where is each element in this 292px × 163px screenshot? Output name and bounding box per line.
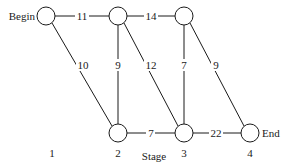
weight-begin-b2: 10 [78, 59, 90, 71]
node-begin [37, 7, 55, 25]
weight-t3-end: 9 [213, 59, 219, 71]
weight-t2-b3: 12 [146, 59, 157, 71]
label-end: End [262, 127, 280, 139]
node-stage2-bottom [109, 124, 127, 142]
node-end [241, 124, 259, 142]
label-begin: Begin [9, 10, 36, 22]
weight-b3-end: 22 [211, 127, 222, 139]
weight-t2-t3: 14 [146, 10, 158, 22]
weight-t2-b2: 9 [115, 59, 121, 71]
stage-network-diagram: 11 10 14 9 12 7 9 7 22 Begin End 1 2 3 4 [0, 0, 292, 163]
edge-t2-b3 [124, 23, 178, 126]
edge-t3-end [190, 23, 244, 126]
weight-begin-t2: 11 [77, 10, 88, 22]
node-stage3-top [175, 7, 193, 25]
stage-axis-label: Stage [8, 150, 292, 162]
edge-begin-b2 [52, 23, 112, 126]
node-stage2-top [109, 7, 127, 25]
weight-b2-b3: 7 [148, 127, 154, 139]
node-stage3-bottom [175, 124, 193, 142]
weight-t3-b3: 7 [181, 59, 187, 71]
